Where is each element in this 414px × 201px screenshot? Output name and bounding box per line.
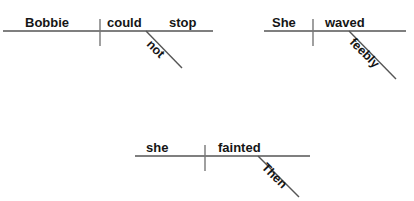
diagram-2-verb: waved [325,16,365,29]
sentence-diagram-1: Bobbie could stop not [0,0,230,95]
diagram-3-lines [130,125,320,201]
diagram-1-verb-word-1: could [107,16,142,29]
diagram-1-verb-word-2: stop [169,16,196,29]
sentence-diagram-3: she fainted Then [130,125,320,201]
sentence-diagram-2: She waved feebly [258,0,414,95]
diagram-3-subject: she [146,141,168,154]
diagram-1-subject: Bobbie [25,16,69,29]
diagram-3-verb: fainted [218,141,261,154]
diagram-2-subject: She [272,16,296,29]
